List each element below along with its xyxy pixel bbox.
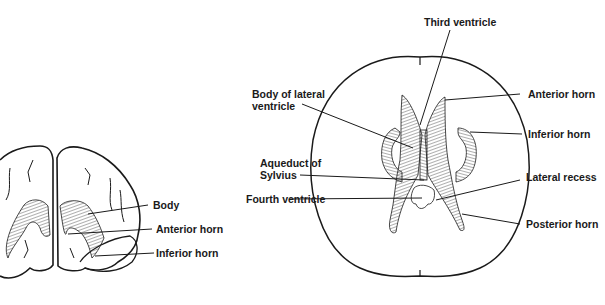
label-fourth-ventricle: Fourth ventricle	[246, 193, 325, 205]
label-anterior-horn-axial: Anterior horn	[528, 88, 595, 100]
label-body: Body	[153, 199, 179, 211]
coronal-ventricles	[6, 200, 104, 258]
axial-ventricles	[382, 95, 477, 233]
label-inferior-horn-axial: Inferior horn	[528, 128, 590, 140]
label-inferior-horn-coronal: Inferior horn	[156, 247, 218, 259]
label-aqueduct-of-sylvius: Aqueduct of Sylvius	[260, 157, 321, 181]
label-lateral-recess: Lateral recess	[526, 171, 597, 183]
ventricles-diagram	[0, 0, 605, 305]
label-posterior-horn: Posterior horn	[526, 218, 598, 230]
label-third-ventricle: Third ventricle	[424, 16, 496, 28]
label-body-of-lateral-ventricle: Body of lateral ventricle	[252, 88, 325, 112]
label-anterior-horn-coronal: Anterior horn	[156, 223, 223, 235]
